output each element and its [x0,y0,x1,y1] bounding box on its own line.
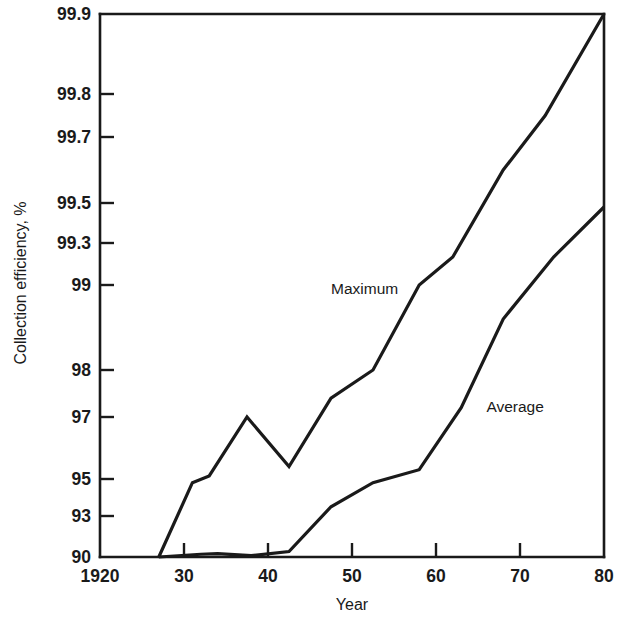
y-axis-tick-label: 93 [72,506,92,526]
x-axis-tick-label: 70 [510,566,530,586]
chart-container: Collection efficiency, % Year 99.999.899… [0,0,621,617]
y-axis-tick-label: 99.8 [57,84,91,104]
y-axis-tick-label: 97 [72,407,91,427]
y-axis-tick-label: 99.5 [57,193,91,213]
x-axis-tick-label: 1920 [81,566,120,586]
y-axis-tick-label: 98 [72,360,92,380]
x-axis-tick-label: 50 [342,566,362,586]
y-axis-tick-label: 99.3 [57,233,91,253]
y-axis-tick-label: 95 [72,469,92,489]
x-axis-tick-label: 60 [426,566,446,586]
y-axis-title: Collection efficiency, % [12,201,29,364]
series-label-group: MaximumAverage [331,280,544,416]
series-line-average [159,207,604,557]
y-axis-tick-label: 90 [72,547,92,567]
y-axis-tick-label: 99.7 [57,127,91,147]
series-label-average: Average [486,398,543,415]
y-axis-tick-label: 99.9 [57,4,91,24]
x-axis-title: Year [336,596,369,613]
x-axis-tick-label: 80 [594,566,614,586]
y-axis-tick-label: 99 [72,275,92,295]
y-axis-tick-group: 99.999.899.799.599.3999897959390 [57,4,114,567]
series-label-maximum: Maximum [331,280,398,297]
collection-efficiency-line-chart: Collection efficiency, % Year 99.999.899… [0,0,621,617]
x-axis-tick-label: 40 [258,566,278,586]
x-axis-tick-label: 30 [174,566,194,586]
